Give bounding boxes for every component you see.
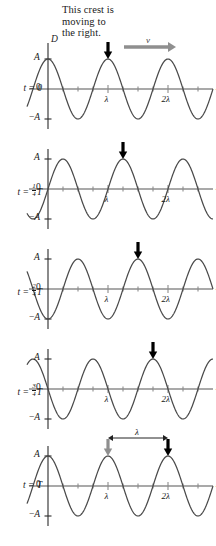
negative-amplitude-label: −A [29,212,40,222]
zero-label: 0 [36,382,41,392]
displacement-axis-label: D [51,34,58,44]
crest-arrow [119,142,127,159]
crest-arrow [149,342,157,359]
crest-arrow [134,242,142,259]
amplitude-label: A [34,352,40,362]
wavelength-tick-label-2: 2λ [162,394,170,404]
velocity-arrow [124,42,176,52]
wavelength-tick-label-2: 2λ [162,294,170,304]
zero-label: 0 [36,82,41,92]
zero-label: 0 [36,182,41,192]
wavelength-tick-label-1: λ [105,194,109,204]
wavelength-tick-label-2: 2λ [162,491,170,501]
wavelength-tick-label-1: λ [105,294,109,304]
amplitude-label: A [34,252,40,262]
negative-amplitude-label: −A [29,412,40,422]
caption-line-3: the right. [62,27,101,38]
wavelength-tick-label-1: λ [105,94,109,104]
panel-t-full: t = T0A−Ax (m)λ2λλ [0,441,216,541]
crest-arrow [104,42,112,59]
negative-amplitude-label: −A [29,509,40,519]
wave-figure: This crest is moving to the right. t = 0… [0,0,216,546]
panel-t0: t = 00A−ADx (m)λ2λv [0,44,216,142]
negative-amplitude-label: −A [29,112,40,122]
zero-label: 0 [36,282,41,292]
wavelength-tick-label-2: 2λ [162,194,170,204]
crest-arrow [164,439,172,456]
zero-label: 0 [36,479,41,489]
bottom-cropped-text [0,538,216,546]
amplitude-label: A [34,152,40,162]
panel-t-quarter: t = 14T0A−Ax (m)λ2λ [0,144,216,242]
velocity-label: v [146,35,150,45]
panel-t-half: t = 24T0A−Ax (m)λ2λ [0,244,216,342]
wavelength-tick-label-1: λ [105,491,109,501]
wavelength-tick-label-1: λ [105,394,109,404]
previous-crest-arrow [104,439,112,456]
caption-line-2: moving to [62,16,106,27]
negative-amplitude-label: −A [29,312,40,322]
amplitude-label: A [34,449,40,459]
wavelength-tick-label-2: 2λ [162,94,170,104]
amplitude-label: A [34,52,40,62]
panel-t-three-quarter: t = 34T0A−Ax (m)λ2λ [0,344,216,442]
figure-caption: This crest is moving to the right. [62,4,158,39]
span-wavelength-label: λ [135,427,139,437]
caption-line-1: This crest is [62,4,114,15]
